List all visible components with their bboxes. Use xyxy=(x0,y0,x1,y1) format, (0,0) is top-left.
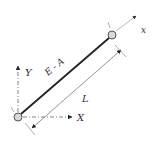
node-i xyxy=(14,113,22,121)
local-x-label: x xyxy=(141,25,146,35)
node-j xyxy=(108,31,116,39)
bar-element xyxy=(21,38,109,114)
dimension-tick-end xyxy=(115,45,126,57)
truss-element-diagram: Y X x E - A L xyxy=(0,0,155,145)
global-y-label: Y xyxy=(25,67,33,78)
local-x-axis xyxy=(116,16,136,31)
length-label: L xyxy=(81,93,89,104)
length-dimension xyxy=(25,45,126,135)
global-x-label: X xyxy=(76,112,85,123)
node-i-tick xyxy=(11,107,14,112)
bar-property-label: E - A xyxy=(42,56,66,79)
dimension-tick-start xyxy=(25,123,35,135)
node-j-tick xyxy=(108,22,110,28)
